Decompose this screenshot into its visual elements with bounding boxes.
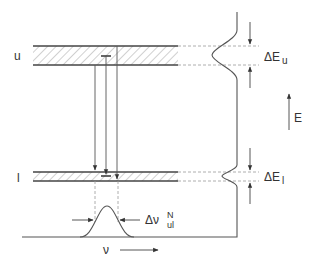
upper-level-band [33,46,178,65]
energy-axis-label: E [294,111,302,125]
lower-level-band [33,172,178,181]
linewidth-label: Δν [145,213,159,227]
transition-arrows [95,46,117,179]
frequency-axis-label: ν [103,243,109,257]
delta-e-upper-label: ΔEu [264,50,288,66]
linewidth-label-sub: ul [167,220,174,230]
projection-dashes [95,46,259,222]
upper-level-label: u [14,49,21,63]
energy-level-diagram: u l ΔEu ΔEl E ν Δν N ul [0,0,314,268]
linewidth-label-sup: N [167,210,174,220]
delta-e-lower-label: ΔEl [264,170,284,186]
lower-level-label: l [17,171,20,185]
frequency-line-profile [80,206,134,237]
